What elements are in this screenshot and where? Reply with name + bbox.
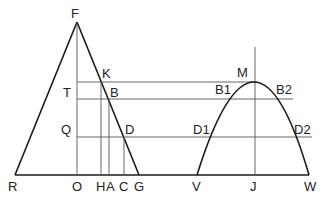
label-V: V bbox=[192, 179, 201, 194]
label-D2: D2 bbox=[294, 122, 311, 137]
label-J: J bbox=[250, 179, 257, 194]
geometry-diagram: F K T B Q D R O H A C G M B1 B2 D1 D2 V … bbox=[0, 0, 324, 208]
label-M: M bbox=[237, 65, 248, 80]
label-R: R bbox=[8, 179, 17, 194]
label-B: B bbox=[110, 85, 119, 100]
label-Q: Q bbox=[61, 122, 71, 137]
label-F: F bbox=[71, 6, 79, 21]
label-D: D bbox=[125, 122, 134, 137]
label-K: K bbox=[102, 66, 111, 81]
side-FG bbox=[77, 22, 139, 175]
label-G: G bbox=[134, 179, 144, 194]
label-B2: B2 bbox=[276, 82, 292, 97]
label-C: C bbox=[119, 179, 128, 194]
label-D1: D1 bbox=[193, 122, 210, 137]
label-A: A bbox=[106, 179, 115, 194]
label-O: O bbox=[72, 179, 82, 194]
label-W: W bbox=[304, 179, 317, 194]
label-T: T bbox=[63, 85, 71, 100]
parabola-VMW bbox=[197, 82, 309, 175]
label-H: H bbox=[96, 179, 105, 194]
label-B1: B1 bbox=[215, 82, 231, 97]
